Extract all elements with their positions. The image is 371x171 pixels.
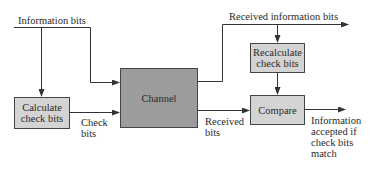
recalculate-check-bits-box: Recalculate check bits [250, 43, 305, 73]
information-bits-label: Information bits [18, 15, 86, 26]
check-bits-label-line1: Check [81, 117, 108, 128]
calculate-label-line1: Calculate [21, 102, 63, 113]
channel-box: Channel [120, 68, 198, 128]
output-label-line4: match [311, 148, 337, 159]
channel-label: Channel [142, 93, 177, 104]
received-information-bits-label: Received information bits [229, 11, 338, 22]
calculate-check-bits-box: Calculate check bits [14, 97, 70, 129]
output-label-line1: Information [311, 115, 361, 126]
compare-label: Compare [258, 105, 297, 116]
compare-box: Compare [250, 95, 305, 125]
received-bits-label-line2: bits [205, 127, 220, 138]
received-bits-label-line1: Received [205, 116, 244, 127]
output-label-line3: check bits [311, 137, 353, 148]
calculate-label-line2: check bits [21, 113, 63, 124]
output-label-line2: accepted if [311, 126, 357, 137]
check-bits-label-line2: bits [81, 128, 96, 139]
recalculate-label-line1: Recalculate [253, 47, 302, 58]
recalculate-label-line2: check bits [253, 58, 302, 69]
